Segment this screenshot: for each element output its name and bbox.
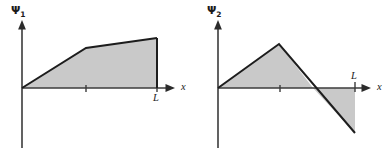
psi1-y-axis-arrow-icon xyxy=(18,20,26,30)
psi1-axis-label-subscript: 1 xyxy=(20,10,25,19)
psi2-x-axis-label: x xyxy=(377,82,382,93)
psi1-axis-label: Ψ1 xyxy=(11,5,26,19)
psi2-length-label: L xyxy=(351,71,357,82)
panel-psi1-plot xyxy=(0,0,196,152)
panel-psi2: Ψ2 L x xyxy=(196,0,392,152)
psi2-axis-label-symbol: Ψ xyxy=(207,4,216,17)
psi1-axis-label-symbol: Ψ xyxy=(11,4,20,17)
psi1-x-axis-label: x xyxy=(181,82,186,93)
wavefunction-figure: Ψ1 L x Ψ2 L x xyxy=(0,0,392,152)
psi2-axis-label-subscript: 2 xyxy=(216,10,221,19)
psi1-length-label: L xyxy=(153,93,159,104)
psi1-area-fill xyxy=(22,38,157,88)
psi1-x-axis-arrow-icon xyxy=(166,84,176,92)
psi2-axis-label: Ψ2 xyxy=(207,5,222,19)
panel-psi2-plot xyxy=(196,0,392,152)
psi2-x-axis-arrow-icon xyxy=(362,84,372,92)
panel-psi1: Ψ1 L x xyxy=(0,0,196,152)
psi2-y-axis-arrow-icon xyxy=(214,20,222,30)
